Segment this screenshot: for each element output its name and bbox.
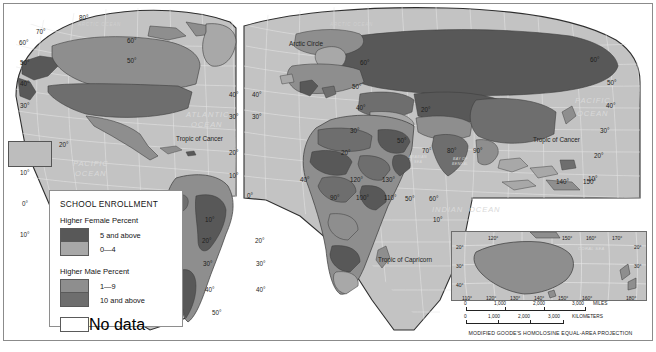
reference-line-label: Arctic Circle	[289, 40, 324, 47]
legend-swatch-male-low	[60, 279, 89, 293]
scale-unit: MILES	[593, 301, 607, 306]
reference-line-label: Tropic of Capricorn	[378, 256, 433, 264]
graticule-label: 70°	[36, 28, 46, 35]
graticule-label: 70°	[422, 147, 432, 154]
scale-bars: 0 1,000 2,000 3,000 MILES 0 1,000 2,000 …	[456, 303, 646, 327]
inset-longitude-label: 130°	[510, 295, 520, 301]
graticule-label: 20°	[59, 141, 69, 148]
legend-item: 1—9	[60, 279, 182, 293]
graticule-label: 50°	[212, 309, 222, 316]
graticule-label: 50°	[405, 195, 415, 202]
legend-group-male: 1—9 10 and above	[60, 279, 182, 307]
graticule-label: 50°	[352, 83, 362, 90]
ocean-label: OCEAN	[75, 169, 107, 178]
scale-tick: 0	[464, 314, 467, 319]
graticule-label: 30°	[20, 102, 30, 109]
graticule-label: 50°	[127, 57, 137, 64]
legend-spacer	[60, 258, 182, 267]
scale-tick: 3,000	[572, 301, 584, 306]
graticule-label: 60°	[19, 39, 29, 46]
inset-longitude-label: 150°	[562, 235, 572, 241]
sea-label: SEA	[414, 160, 422, 164]
graticule-label: 120°	[350, 176, 364, 183]
legend-label: No data	[89, 316, 145, 334]
legend-label: 0—4	[100, 245, 116, 254]
graticule-label: 20°	[255, 237, 265, 244]
graticule-label: 90°	[330, 194, 340, 201]
graticule-label: 40°	[256, 286, 266, 293]
graticule-label: 20°	[594, 152, 604, 159]
inset-longitude-label: 150°	[558, 295, 568, 301]
inset-latitude-label: 30°	[456, 263, 464, 269]
legend-swatch-female-low	[60, 242, 89, 256]
graticule-label: 110°	[384, 194, 397, 201]
graticule-label: 60°	[360, 59, 370, 66]
inset-longitude-label: 120°	[488, 235, 498, 241]
legend-section-male: Higher Male Percent	[60, 267, 182, 276]
ocean-label: ARCTIC OCEAN	[329, 22, 373, 27]
graticule-label: 30°	[229, 113, 239, 120]
scale-miles-bar	[466, 307, 586, 311]
ocean-label: PACIFIC	[73, 159, 109, 168]
scale-tick: 3,000	[548, 314, 560, 319]
ocean-label: OCEAN	[577, 109, 609, 118]
inset-longitude-label: 180°	[626, 295, 636, 301]
graticule-label: 130°	[382, 176, 396, 183]
graticule-label: 40°	[300, 176, 310, 183]
scale-tick: 1,000	[488, 314, 500, 319]
ocean-label: PACIFIC	[575, 96, 611, 105]
inset-latitude-label: 40°	[456, 282, 464, 288]
graticule-label: 20°	[202, 237, 212, 244]
map-figure: 80°70°60°60°50°50°40°40°40°30°30°30°20°2…	[0, 0, 656, 352]
australia-inset-svg: CORAL SEA 120°150°160°170°110°120°130°14…	[452, 232, 647, 301]
graticule-label: 60°	[127, 37, 137, 44]
sea-label: BAY OF	[453, 157, 468, 161]
graticule-label: 40°	[356, 104, 366, 111]
graticule-label: 30°	[256, 260, 266, 267]
graticule-label: 40°	[205, 286, 215, 293]
graticule-label: 40°	[229, 91, 239, 98]
ocean-label: OCEAN	[469, 205, 501, 214]
graticule-label: 30°	[600, 127, 610, 134]
graticule-label: 90°	[473, 147, 483, 154]
scale-tick: 1,000	[494, 301, 506, 306]
legend-label: 10 and above	[100, 296, 145, 305]
inset-longitude-label: 170°	[612, 235, 622, 241]
graticule-label: 50°	[397, 137, 407, 144]
inset-latitude-label: 20°	[456, 244, 464, 250]
ocean-label: OCEAN	[191, 120, 223, 129]
graticule-label: 40°	[20, 80, 30, 87]
scale-miles-row: 0 1,000 2,000 3,000 MILES	[456, 303, 646, 314]
graticule-label: 10°	[433, 216, 443, 223]
graticule-label: 10°	[205, 216, 215, 223]
graticule-label: 100°	[356, 194, 370, 201]
graticule-label: 20°	[341, 149, 351, 156]
inset-latitude-label: 20°	[634, 244, 642, 250]
scale-km-row: 0 1,000 2,000 3,000 KILOMETERS	[456, 316, 646, 327]
graticule-label: 50°	[607, 79, 617, 86]
legend-swatch-female-high	[60, 228, 89, 242]
graticule-label: 10°	[20, 169, 30, 176]
graticule-label: 10°	[20, 231, 30, 238]
graticule-label: 30°	[350, 127, 360, 134]
left-edge-mini-inset	[8, 141, 52, 167]
inset-longitude-label: 160°	[586, 235, 596, 241]
legend-swatch-nodata	[60, 317, 89, 332]
inset-sea-label: CORAL SEA	[578, 246, 605, 251]
scale-unit: KILOMETERS	[572, 314, 603, 319]
australia-inset-panel: CORAL SEA 120°150°160°170°110°120°130°14…	[451, 231, 647, 301]
graticule-label: 10°	[229, 172, 239, 179]
graticule-label: 0°	[22, 200, 29, 207]
graticule-label: 140°	[556, 178, 570, 185]
graticule-label: 60°	[590, 56, 600, 63]
ocean-label: ARCTIC OCEAN	[77, 22, 121, 27]
sea-label: ARABIAN	[408, 155, 427, 159]
graticule-label: 20°	[229, 149, 239, 156]
legend-group-female: 5 and above 0—4	[60, 228, 182, 256]
reference-line-label: Tropic of Cancer	[176, 135, 224, 143]
scale-km-bar	[466, 320, 564, 324]
legend-panel: SCHOOL ENROLLMENT Higher Female Percent …	[49, 190, 183, 327]
graticule-label: 0°	[247, 192, 254, 199]
reference-line-label: Tropic of Cancer	[533, 136, 581, 144]
graticule-label: 30°	[203, 260, 213, 267]
